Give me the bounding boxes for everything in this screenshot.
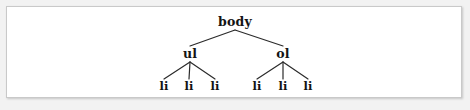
tree-node-li-ol-2: li [278, 81, 287, 93]
diagram-screenshot: body ul ol li li li li li li [0, 0, 470, 110]
tree-node-li-ol-3: li [303, 81, 312, 93]
tree-node-body: body [218, 16, 252, 29]
tree-node-ul: ul [183, 48, 197, 61]
tree-node-ol: ol [276, 48, 290, 61]
tree-node-li-ol-1: li [252, 81, 261, 93]
tree-node-li-ul-3: li [210, 81, 219, 93]
tree-node-li-ul-2: li [184, 81, 193, 93]
tree-node-li-ul-1: li [159, 81, 168, 93]
